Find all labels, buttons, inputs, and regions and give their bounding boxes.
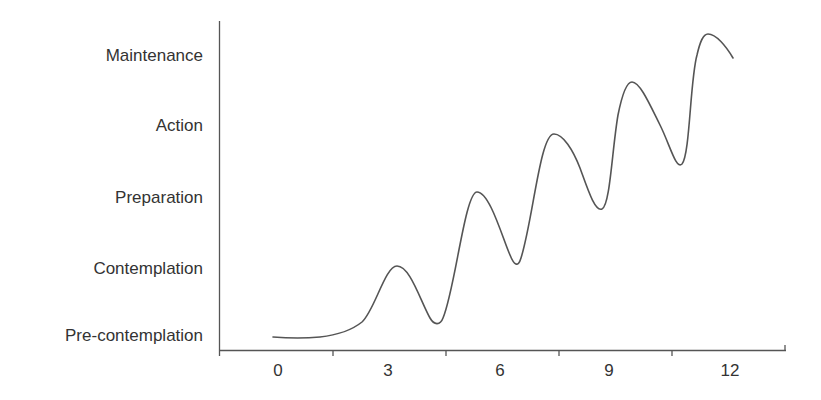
x-label-0: 0: [273, 361, 282, 380]
x-label-6: 6: [495, 361, 504, 380]
y-label-contemplation: Contemplation: [93, 259, 203, 278]
x-label-12: 12: [721, 361, 740, 380]
stages-of-change-chart: Maintenance Action Preparation Contempla…: [0, 0, 821, 400]
stage-progress-curve: [273, 34, 733, 338]
x-label-3: 3: [383, 361, 392, 380]
y-label-action: Action: [156, 116, 203, 135]
x-label-9: 9: [604, 361, 613, 380]
y-axis-labels: Maintenance Action Preparation Contempla…: [65, 46, 203, 345]
y-label-maintenance: Maintenance: [106, 46, 203, 65]
x-axis-labels: 0 3 6 9 12: [273, 361, 739, 380]
y-label-pre-contemplation: Pre-contemplation: [65, 326, 203, 345]
y-label-preparation: Preparation: [115, 188, 203, 207]
